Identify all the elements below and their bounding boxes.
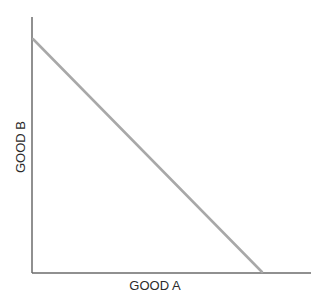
y-axis-label: GOOD B xyxy=(13,121,28,173)
chart: GOOD A GOOD B xyxy=(0,0,322,302)
ppf-line xyxy=(33,39,262,272)
x-axis-label: GOOD A xyxy=(129,278,181,293)
